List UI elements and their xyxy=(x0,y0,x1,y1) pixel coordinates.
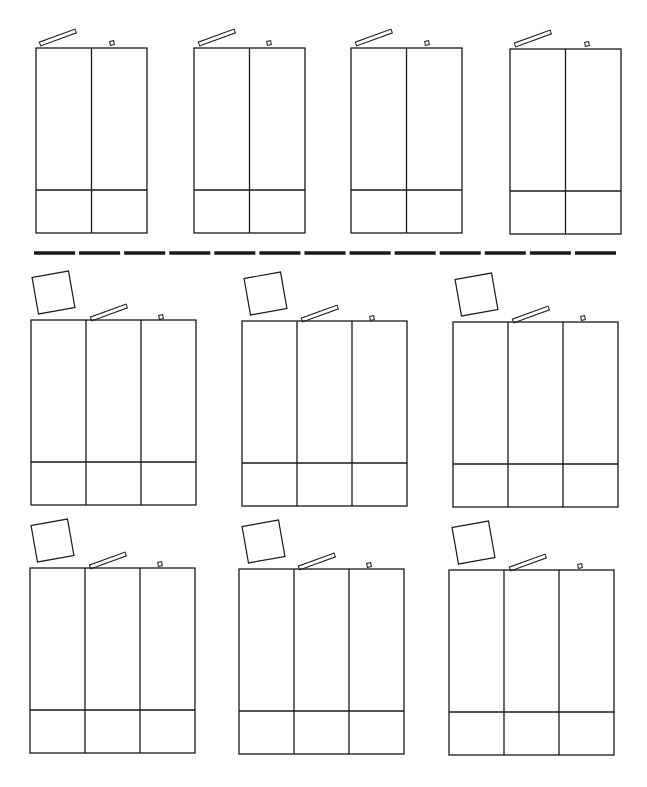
wardrobe-2-door xyxy=(510,30,621,234)
tilted-box-icon xyxy=(452,521,495,564)
knob-icon xyxy=(578,564,583,569)
wardrobe-3-door xyxy=(239,520,404,754)
knob-icon xyxy=(158,562,163,567)
wardrobe-2-door xyxy=(194,29,305,233)
tilted-box-icon xyxy=(32,271,75,314)
wardrobe-frame xyxy=(239,569,404,754)
wardrobe-diagram xyxy=(0,0,647,787)
knob-icon xyxy=(159,315,164,320)
wardrobe-3-door xyxy=(31,271,196,505)
handle-bar-icon xyxy=(301,305,338,322)
handle-bar-icon xyxy=(89,552,126,569)
knob-icon xyxy=(267,41,272,46)
wardrobe-frame xyxy=(453,322,618,507)
wardrobe-3-door xyxy=(30,519,195,753)
handle-bar-icon xyxy=(298,553,335,570)
handle-bar-icon xyxy=(90,304,127,321)
handle-bar-icon xyxy=(39,29,76,46)
wardrobe-frame xyxy=(242,321,407,506)
wardrobe-frame xyxy=(30,568,195,753)
handle-bar-icon xyxy=(198,29,235,46)
handle-bar-icon xyxy=(509,554,546,571)
wardrobe-2-door xyxy=(36,29,147,233)
knob-icon xyxy=(367,563,372,568)
wardrobe-3-door xyxy=(449,521,614,755)
knob-icon xyxy=(110,41,115,46)
handle-bar-icon xyxy=(355,29,392,46)
tilted-box-icon xyxy=(242,520,285,563)
handle-bar-icon xyxy=(512,306,549,323)
handle-bar-icon xyxy=(514,30,551,47)
wardrobe-group xyxy=(30,29,621,755)
knob-icon xyxy=(585,42,590,47)
wardrobe-3-door xyxy=(453,273,618,507)
knob-icon xyxy=(425,41,430,46)
tilted-box-icon xyxy=(455,273,498,316)
tilted-box-icon xyxy=(31,519,74,562)
wardrobe-2-door xyxy=(351,29,462,233)
wardrobe-frame xyxy=(449,570,614,755)
knob-icon xyxy=(370,316,375,321)
knob-icon xyxy=(581,316,586,321)
wardrobe-3-door xyxy=(242,272,407,506)
wardrobe-frame xyxy=(31,320,196,505)
tilted-box-icon xyxy=(244,272,287,315)
